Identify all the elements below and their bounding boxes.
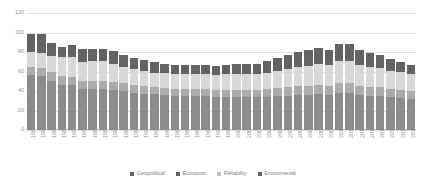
legend-item[interactable]: Reliability bbox=[217, 171, 247, 176]
bar-segment-enviromental bbox=[355, 50, 363, 65]
x-axis-tick-label: 2001 bbox=[242, 131, 252, 163]
x-axis-tick-label: 2003 bbox=[262, 131, 272, 163]
bar-segment-reliability bbox=[58, 57, 66, 77]
bar-segment-geopolitical bbox=[273, 96, 281, 130]
bar-segment-geopolitical bbox=[27, 75, 35, 130]
bar-segment-reliability bbox=[109, 64, 117, 83]
x-axis-tick-label: 1980 bbox=[26, 131, 36, 163]
bar-segment-reliability bbox=[242, 74, 250, 90]
bar-column bbox=[335, 13, 343, 130]
bar-segment-economic bbox=[325, 86, 333, 95]
x-axis-tick-label: 1981 bbox=[36, 131, 46, 163]
bar-segment-geopolitical bbox=[58, 85, 66, 130]
bar-segment-enviromental bbox=[407, 65, 415, 75]
bar-segment-economic bbox=[88, 81, 96, 89]
bar-segment-reliability bbox=[88, 61, 96, 81]
x-axis-tick-label: 2008 bbox=[313, 131, 323, 163]
bar-segment-enviromental bbox=[150, 62, 158, 73]
bar-segment-enviromental bbox=[304, 50, 312, 66]
bar-column bbox=[253, 13, 261, 130]
bar-segment-economic bbox=[78, 81, 86, 89]
bar-segment-economic bbox=[68, 77, 76, 85]
y-axis-tick-label: 120 bbox=[0, 10, 24, 15]
bar-series-container bbox=[26, 13, 416, 130]
bar-segment-enviromental bbox=[242, 64, 250, 75]
bar-segment-reliability bbox=[37, 53, 45, 68]
legend-item[interactable]: Enviromental bbox=[258, 171, 296, 176]
bar-segment-economic bbox=[273, 88, 281, 96]
x-axis-tick-label: 2000 bbox=[231, 131, 241, 163]
x-axis-tick-label: 2017 bbox=[406, 131, 416, 163]
bar-segment-economic bbox=[407, 91, 415, 99]
bar-segment-enviromental bbox=[366, 53, 374, 67]
bar-segment-geopolitical bbox=[181, 96, 189, 130]
bar-segment-enviromental bbox=[201, 65, 209, 75]
legend-label: Enviromental bbox=[264, 171, 295, 176]
bar-segment-geopolitical bbox=[47, 81, 55, 130]
legend-swatch-icon bbox=[217, 172, 221, 176]
bar-segment-reliability bbox=[191, 74, 199, 89]
bar-column bbox=[376, 13, 384, 130]
bar-segment-geopolitical bbox=[99, 89, 107, 130]
bar-segment-reliability bbox=[171, 74, 179, 89]
bar-segment-enviromental bbox=[37, 34, 45, 53]
bar-segment-reliability bbox=[273, 71, 281, 89]
bar-segment-enviromental bbox=[222, 65, 230, 75]
x-axis-tick-label: 1987 bbox=[98, 131, 108, 163]
bar-column bbox=[58, 13, 66, 130]
bar-segment-reliability bbox=[314, 64, 322, 85]
bar-segment-geopolitical bbox=[150, 94, 158, 130]
bar-segment-enviromental bbox=[160, 64, 168, 74]
bar-segment-economic bbox=[345, 83, 353, 93]
bar-segment-geopolitical bbox=[335, 93, 343, 130]
x-axis-tick-labels: 1980198119821983198419851986198719881989… bbox=[26, 131, 416, 163]
bar-segment-economic bbox=[253, 90, 261, 97]
bar-segment-enviromental bbox=[325, 50, 333, 65]
bar-segment-economic bbox=[191, 89, 199, 96]
legend-label: Reliability bbox=[224, 171, 247, 176]
x-axis-tick-label: 1991 bbox=[139, 131, 149, 163]
bar-segment-reliability bbox=[396, 72, 404, 90]
legend-item[interactable]: Geopolitical bbox=[130, 171, 165, 176]
bar-segment-economic bbox=[396, 90, 404, 98]
bar-segment-enviromental bbox=[88, 49, 96, 61]
bar-column bbox=[27, 13, 35, 130]
x-axis-tick-label: 1998 bbox=[211, 131, 221, 163]
bar-segment-reliability bbox=[27, 52, 35, 67]
bar-segment-enviromental bbox=[27, 34, 35, 53]
bar-segment-geopolitical bbox=[366, 96, 374, 130]
x-axis-tick-label: 2005 bbox=[283, 131, 293, 163]
bar-segment-economic bbox=[27, 67, 35, 76]
bar-column bbox=[109, 13, 117, 130]
x-axis-tick-label: 2010 bbox=[334, 131, 344, 163]
x-axis-tick-label: 2009 bbox=[324, 131, 334, 163]
bar-segment-geopolitical bbox=[109, 90, 117, 130]
bar-segment-economic bbox=[314, 85, 322, 94]
x-axis-tick-label: 2015 bbox=[385, 131, 395, 163]
x-axis-tick-label: 1993 bbox=[159, 131, 169, 163]
bar-segment-economic bbox=[355, 86, 363, 95]
bar-segment-reliability bbox=[284, 69, 292, 88]
bar-segment-reliability bbox=[212, 75, 220, 90]
bar-segment-geopolitical bbox=[314, 94, 322, 130]
bar-segment-reliability bbox=[345, 61, 353, 83]
bar-column bbox=[325, 13, 333, 130]
bar-segment-economic bbox=[171, 89, 179, 96]
bar-segment-enviromental bbox=[68, 45, 76, 57]
x-axis-tick-label: 1982 bbox=[47, 131, 57, 163]
bar-segment-economic bbox=[386, 89, 394, 97]
bar-segment-reliability bbox=[222, 74, 230, 90]
bar-segment-reliability bbox=[47, 56, 55, 73]
bar-column bbox=[304, 13, 312, 130]
bar-segment-enviromental bbox=[345, 44, 353, 61]
bar-segment-enviromental bbox=[78, 49, 86, 62]
bar-segment-reliability bbox=[181, 74, 189, 89]
bar-segment-reliability bbox=[386, 71, 394, 90]
x-axis-tick-label: 2011 bbox=[344, 131, 354, 163]
bar-segment-geopolitical bbox=[37, 76, 45, 130]
bar-segment-enviromental bbox=[119, 55, 127, 67]
x-axis-tick-label: 2002 bbox=[252, 131, 262, 163]
legend-item[interactable]: Economic bbox=[176, 171, 206, 176]
bar-segment-economic bbox=[37, 68, 45, 77]
bar-column bbox=[407, 13, 415, 130]
